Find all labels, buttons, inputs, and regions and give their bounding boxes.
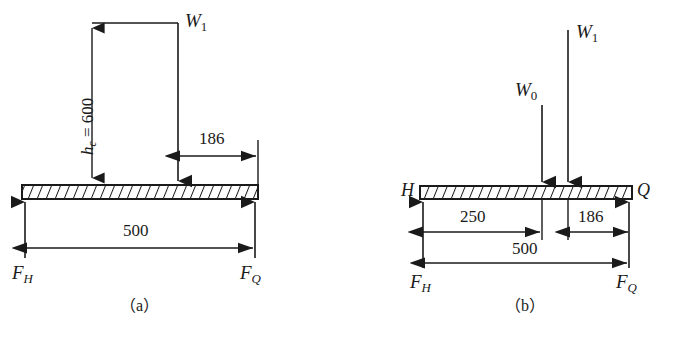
dimension-hc-a bbox=[92, 23, 178, 178]
panel-caption-a: （a） bbox=[120, 298, 159, 314]
dimension-label-186-a: 186 bbox=[199, 130, 225, 147]
dimension-label-250-b: 250 bbox=[460, 208, 486, 225]
dimension-label-hc-a: hc = 600 bbox=[78, 98, 99, 155]
load-label-w0-b: W0 bbox=[515, 80, 537, 103]
load-label-w1-b: W1 bbox=[576, 22, 598, 45]
panel-caption-b: （b） bbox=[505, 298, 545, 314]
force-label-fh-b: FH bbox=[410, 272, 431, 295]
node-label-q-b: Q bbox=[637, 181, 650, 199]
dimension-label-186-b: 186 bbox=[578, 208, 604, 225]
dimension-label-500-a: 500 bbox=[123, 222, 149, 239]
engineering-diagram: W1 hc = 600 186 500 FH FQ （a） W1 W0 H Q … bbox=[0, 0, 685, 339]
diagram-svg bbox=[0, 0, 685, 339]
node-label-h-b: H bbox=[401, 181, 414, 199]
dimension-label-500-b: 500 bbox=[512, 240, 538, 257]
beam-b bbox=[420, 186, 632, 199]
force-label-fq-a: FQ bbox=[240, 263, 261, 286]
force-label-fq-b: FQ bbox=[616, 272, 637, 295]
witness-lines-b bbox=[542, 199, 568, 240]
beam-a bbox=[22, 185, 258, 199]
panel-b-graphics bbox=[420, 30, 632, 268]
force-label-fh-a: FH bbox=[12, 263, 33, 286]
load-label-w1-a: W1 bbox=[185, 11, 207, 34]
